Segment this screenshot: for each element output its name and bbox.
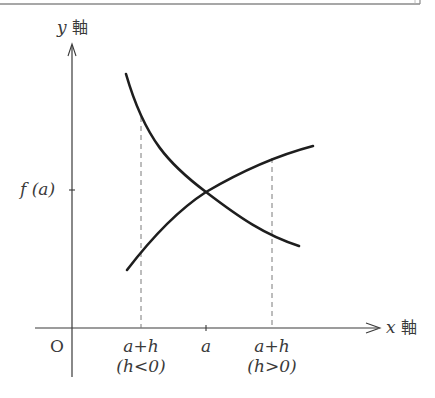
curves (126, 74, 313, 270)
x-tick-right-label: a+h (254, 338, 289, 355)
diagram-canvas (0, 0, 435, 398)
x-tick-left-note: (h<0) (116, 358, 165, 375)
x-tick-left-label: a+h (123, 338, 158, 355)
x-axis-var: x (386, 317, 396, 337)
y-axis-label: y 軸 (57, 19, 88, 36)
x-axis (35, 323, 380, 333)
fa-label: f (a) (20, 181, 55, 198)
y-axis (68, 44, 76, 377)
y-axis-word: 軸 (72, 18, 88, 37)
increasing-curve (127, 146, 313, 270)
x-axis-word: 軸 (401, 318, 417, 337)
x-axis-label: x 軸 (386, 319, 417, 336)
function-diagram: y 軸 x 軸 O f (a) a+h (h<0) a a+h (h>0) (0, 0, 435, 398)
x-tick-a-label: a (201, 338, 211, 355)
origin-label: O (50, 338, 64, 355)
x-tick-right-note: (h>0) (247, 358, 296, 375)
y-axis-var: y (57, 17, 67, 37)
top-frame (0, 0, 420, 4)
